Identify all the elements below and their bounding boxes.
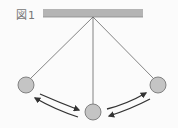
figure-frame: 図1 [0,0,178,128]
bob-right [150,77,166,93]
arrow-left-to-center-icon [40,94,79,110]
bob-left [18,77,34,93]
arrow-center-to-right-icon [107,93,146,109]
ceiling-bar [43,9,143,17]
pendulum-diagram [0,0,178,128]
string-left [30,17,93,79]
bob-center [85,104,101,120]
string-right [93,17,154,79]
